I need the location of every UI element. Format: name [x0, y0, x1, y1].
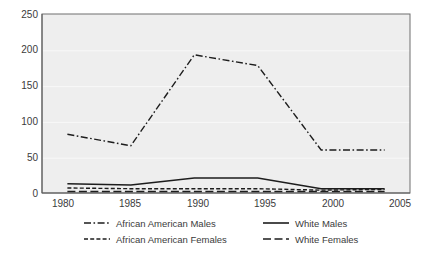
- chart-legend: African American Males White Males Afric…: [84, 218, 359, 245]
- y-tick-label: 100: [21, 116, 38, 127]
- legend-item-white-females[interactable]: White Females: [263, 234, 359, 245]
- legend-item-african-american-males[interactable]: African American Males: [84, 218, 216, 229]
- y-tick-label: 250: [21, 9, 38, 20]
- x-tick-label: 2005: [389, 198, 412, 209]
- legend-label: African American Females: [116, 234, 227, 245]
- x-tick-label: 1990: [187, 198, 210, 209]
- x-tick-label: 1980: [52, 198, 75, 209]
- legend-item-white-males[interactable]: White Males: [263, 218, 348, 229]
- y-tick-label: 200: [21, 44, 38, 55]
- legend-item-african-american-females[interactable]: African American Females: [84, 234, 227, 245]
- line-chart-figure: 250 200 150 100 50 0 1980 1985 1990 1995…: [0, 0, 432, 265]
- x-axis-tick-labels: 1980 1985 1990 1995 2000 2005: [52, 198, 412, 209]
- x-tick-label: 1995: [254, 198, 277, 209]
- y-tick-label: 50: [27, 152, 39, 163]
- y-axis-tick-labels: 250 200 150 100 50 0: [21, 9, 38, 199]
- chart-canvas: 250 200 150 100 50 0 1980 1985 1990 1995…: [0, 0, 432, 265]
- x-tick-label: 2000: [322, 198, 345, 209]
- x-tick-label: 1985: [119, 198, 142, 209]
- legend-label: White Males: [295, 218, 348, 229]
- y-tick-label: 0: [32, 188, 38, 199]
- plot-area-background: [42, 14, 410, 193]
- legend-label: African American Males: [116, 218, 216, 229]
- y-tick-label: 150: [21, 80, 38, 91]
- legend-label: White Females: [295, 234, 359, 245]
